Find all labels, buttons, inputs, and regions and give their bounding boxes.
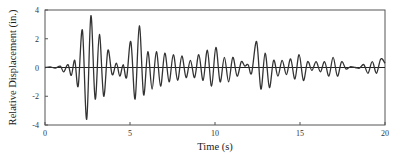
x-tick-label: 15 [296,129,304,138]
y-axis-label: Relative Displacement (in.) [7,9,19,125]
y-tick-label: 0 [35,64,39,73]
x-tick-label: 0 [43,129,47,138]
x-tick-label: 20 [381,129,389,138]
x-axis-label: Time (s) [197,141,233,153]
y-tick-label: 4 [35,6,39,15]
y-tick-label: -2 [32,92,39,101]
x-axis-ticks: 05101520 [43,122,389,138]
x-tick-label: 10 [211,129,219,138]
x-tick-label: 5 [128,129,132,138]
y-tick-label: 2 [35,35,39,44]
displacement-time-chart: -4-2024 05101520 Time (s) Relative Displ… [0,0,406,157]
y-tick-label: -4 [32,121,39,130]
